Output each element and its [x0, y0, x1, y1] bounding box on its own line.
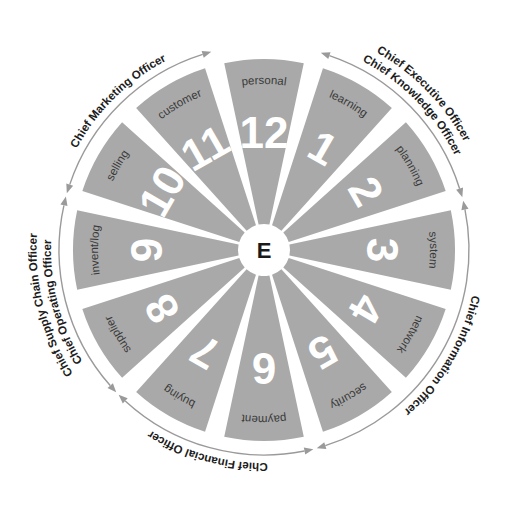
arrow-head-icon — [60, 196, 67, 206]
sector-number-3: 3 — [358, 238, 407, 262]
sector-number-6: 6 — [252, 344, 276, 393]
clock-wheel-diagram: 123456789101112 learningplanningsystemne… — [0, 0, 510, 508]
arrow-head-icon — [66, 183, 73, 193]
arrow-head-icon — [321, 52, 331, 59]
sector-number-9: 9 — [122, 238, 171, 262]
sector-topic-3: system — [427, 231, 440, 269]
diagram-canvas: 123456789101112 learningplanningsystemne… — [0, 0, 510, 508]
sector-topic-12: personal — [241, 74, 287, 87]
arrow-head-icon — [317, 442, 327, 449]
arrow-head-icon — [456, 188, 463, 198]
arrow-head-icon — [461, 201, 468, 211]
arrow-head-icon — [304, 447, 314, 454]
center-label: E — [257, 238, 272, 263]
arrow-head-icon — [202, 51, 212, 58]
sector-number-12: 12 — [240, 108, 289, 157]
sector-topic-9: invent/log — [88, 224, 102, 276]
role-label: Chief Executive Officer — [375, 43, 474, 144]
